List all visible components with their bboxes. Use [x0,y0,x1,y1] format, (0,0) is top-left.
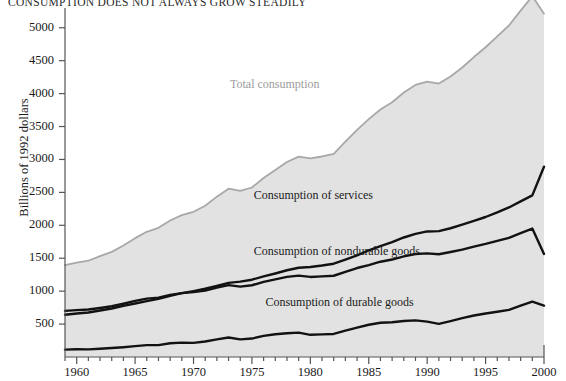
x-tick-label: 1960 [53,365,101,380]
series-annotation-consumption-of-durable-goods: Consumption of durable goods [265,295,413,310]
chart-figure: CONSUMPTION DOES NOT ALWAYS GROW STEADIL… [0,0,566,381]
x-tick-label: 1980 [286,365,334,380]
y-tick-label: 3500 [0,119,54,134]
y-tick-label: 500 [0,316,54,331]
series-annotation-total-consumption: Total consumption [230,77,319,92]
y-tick-label: 4500 [0,53,54,68]
x-tick-label: 1990 [403,365,451,380]
series-annotation-consumption-of-nondurable-goods: Consumption of nondurable goods [254,244,420,259]
y-tick-label: 2500 [0,184,54,199]
y-tick-label: 1500 [0,250,54,265]
y-tick-label: 2000 [0,217,54,232]
x-tick-label: 1995 [462,365,510,380]
x-tick-label: 1970 [170,365,218,380]
x-tick-label: 2000 [520,365,566,380]
x-tick-label: 1975 [228,365,276,380]
y-tick-label: 5000 [0,20,54,35]
y-tick-label: 1000 [0,283,54,298]
series-annotation-consumption-of-services: Consumption of services [254,188,373,203]
x-tick-label: 1985 [345,365,393,380]
x-tick-label: 1965 [111,365,159,380]
y-tick-label: 3000 [0,151,54,166]
y-tick-label: 4000 [0,86,54,101]
